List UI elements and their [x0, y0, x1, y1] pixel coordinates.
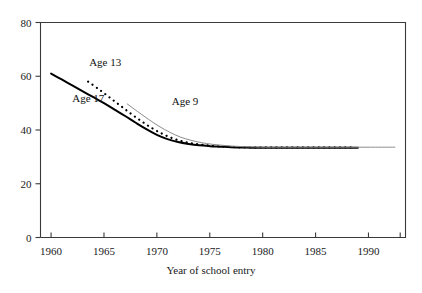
y-tick-label: 80 [0, 17, 32, 28]
series-label-age-17: Age 17 [72, 93, 104, 104]
x-tick-label: 1975 [199, 246, 221, 257]
x-tick-label: 1970 [146, 246, 168, 257]
y-tick-label: 0 [0, 232, 32, 243]
y-tick-label: 60 [0, 71, 32, 82]
series-line-age-13 [88, 82, 352, 148]
x-axis-title: Year of school entry [0, 264, 422, 276]
x-tick-label: 1990 [357, 246, 379, 257]
series-line-age-17 [51, 74, 358, 148]
data-series-group [51, 74, 395, 148]
x-tick-label: 1985 [305, 246, 327, 257]
chart-figure: 020406080 1960196519701975198019851990 A… [0, 0, 422, 293]
series-line-age-9 [127, 104, 395, 147]
y-tick-label: 40 [0, 125, 32, 136]
y-tick-label: 20 [0, 178, 32, 189]
x-tick-label: 1965 [93, 246, 115, 257]
plot-frame [41, 23, 406, 238]
axis-ticks [36, 23, 401, 238]
x-tick-label: 1980 [252, 246, 274, 257]
x-tick-label: 1960 [40, 246, 62, 257]
series-label-age-9: Age 9 [172, 96, 199, 107]
series-label-age-13: Age 13 [89, 57, 121, 68]
